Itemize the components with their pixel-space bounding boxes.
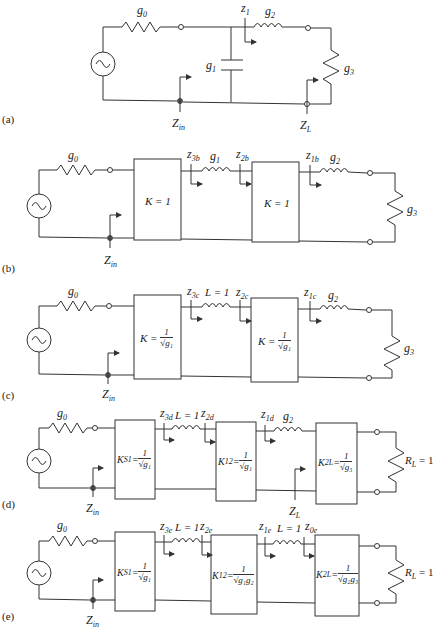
zin-label: Zin <box>102 388 115 403</box>
z3-label: z3d <box>160 407 173 422</box>
zl-label: ZL <box>300 119 311 134</box>
load-resistor-label: g3 <box>407 203 417 218</box>
load-resistor-label: RL = 1 <box>405 455 433 469</box>
inverter-1: KS1=1√g₁ <box>117 562 151 582</box>
zin-label: Zin <box>86 614 99 629</box>
inverter-2: K = 1 <box>264 197 290 209</box>
inverter-3: K2L=1√g₂g₃ <box>316 564 358 584</box>
inverter-1: K = 1 <box>145 195 171 207</box>
panel-b-circuit <box>27 159 403 248</box>
inductor-1-label: L = 1 <box>175 410 199 421</box>
circuit-diagrams <box>0 0 436 638</box>
panel-c-label: (c) <box>2 389 14 401</box>
zl-label: ZL <box>289 505 300 520</box>
capacitor-label: g1 <box>206 59 216 74</box>
panel-a-label: (a) <box>2 113 14 125</box>
inverter-3: K2L=1√g₃ <box>318 452 352 472</box>
inductor-2-label: g2 <box>283 410 293 425</box>
z2-label: z2d <box>201 407 214 422</box>
inductor-1-label: g1 <box>210 150 220 165</box>
inductor-2-label: L = 1 <box>277 523 301 534</box>
zin-label: Zin <box>172 117 185 132</box>
z2-label: z2c <box>236 286 248 301</box>
inductor-2-label: g2 <box>328 289 338 304</box>
z2-label: z2b <box>236 148 249 163</box>
z1-label: z1d <box>261 408 274 423</box>
source-resistor-label: g0 <box>57 407 67 422</box>
zin-label: Zin <box>86 502 99 517</box>
panel-d-label: (d) <box>2 498 15 510</box>
inverter-2: K12=1√g₁ <box>218 451 252 471</box>
z1-label: z1c <box>304 286 316 301</box>
zin-label: Zin <box>104 254 117 269</box>
z1-label: z1b <box>306 149 319 164</box>
load-resistor-label: g3 <box>404 342 414 357</box>
inverter-2: K12=1√g₁g₂ <box>212 565 254 585</box>
z3-label: z3c <box>187 285 199 300</box>
inductor-1-label: L = 1 <box>205 287 229 298</box>
load-resistor-label: RL = 1 <box>405 567 433 581</box>
inverter-2: K = 1√g₁ <box>258 331 291 351</box>
source-resistor-label: g0 <box>57 519 67 534</box>
panel-b-label: (b) <box>2 262 15 274</box>
inverter-1: K = 1√g₁ <box>140 328 173 348</box>
z1-label: z1 <box>241 2 250 17</box>
inductor-label: g2 <box>265 5 275 20</box>
z0-label: z0e <box>305 520 317 535</box>
z1-label: z1e <box>259 520 271 535</box>
z3-label: z3b <box>187 148 200 163</box>
z2-label: z2e <box>200 520 212 535</box>
panel-c-circuit <box>27 295 400 384</box>
inverter-1: KS1=1√g₁ <box>117 449 151 469</box>
inductor-1-label: L = 1 <box>175 522 199 533</box>
source-resistor-label: g0 <box>68 149 78 164</box>
z3-label: z3e <box>160 520 172 535</box>
source-resistor-label: g0 <box>137 4 147 19</box>
load-resistor-label: g3 <box>344 62 354 77</box>
panel-e-label: (e) <box>2 610 14 622</box>
inductor-2-label: g2 <box>330 151 340 166</box>
source-resistor-label: g0 <box>68 285 78 300</box>
